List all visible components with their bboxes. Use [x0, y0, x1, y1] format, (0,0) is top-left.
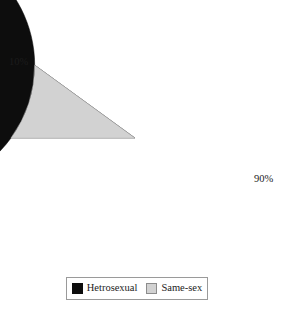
slice-label-hetrosexual: 90% — [254, 174, 273, 185]
legend-item-hetrosexual[interactable]: Hetrosexual — [72, 283, 138, 294]
slice-label-same-sex: 10% — [9, 57, 28, 68]
chart-legend: Hetrosexual Same-sex — [66, 277, 208, 300]
legend-swatch-icon-hetrosexual — [72, 283, 83, 294]
pie-svg — [0, 0, 285, 272]
pie-chart-figure: 10% 90% Hetrosexual Same-sex — [0, 0, 285, 311]
pie-plot-area — [0, 0, 285, 272]
legend-item-same-sex[interactable]: Same-sex — [146, 283, 202, 294]
legend-label-same-sex: Same-sex — [161, 283, 202, 294]
legend-label-hetrosexual: Hetrosexual — [87, 283, 138, 294]
legend-swatch-icon-same-sex — [146, 283, 157, 294]
